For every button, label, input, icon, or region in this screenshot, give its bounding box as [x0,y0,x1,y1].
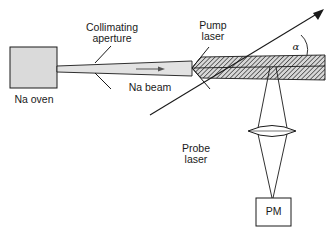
aperture-label-line2: aperture [84,33,140,44]
collection-cone-left-lower [258,134,272,198]
na-beam [57,61,192,76]
probe-arrow-head-icon [313,9,324,20]
beam-label: Na beam [127,82,173,93]
probe-laser-label-line2: laser [178,154,214,165]
pm-label: PM [256,206,291,217]
aperture-upper-blade [95,46,111,63]
diagram-canvas [0,0,334,235]
na-oven-box [10,47,57,88]
pump-laser-label-line2: laser [197,31,229,42]
oven-label: Na oven [10,94,58,105]
aperture-lower-blade [95,73,111,89]
angle-alpha-label: α [290,41,302,52]
collection-cone-right-lower [273,134,287,198]
